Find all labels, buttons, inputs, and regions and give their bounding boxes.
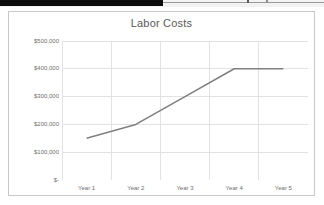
data-series-line [87, 69, 284, 139]
chart-title: Labor Costs [9, 17, 314, 29]
x-axis-tick-label: Year 5 [255, 185, 311, 191]
vertical-gridlines [62, 41, 308, 180]
y-axis-tick-label: $- [13, 177, 59, 183]
window-chrome-divider [163, 2, 324, 3]
x-axis-tick-label: Year 2 [108, 185, 164, 191]
horizontal-gridlines [62, 41, 308, 180]
window-chrome-tick-right-icon [266, 0, 268, 3]
window-chrome-tick-left-icon [247, 0, 249, 3]
chart-panel[interactable]: Labor Costs $-$100,000$200,000$300,000$4… [8, 11, 315, 196]
y-axis-tick-label: $500,000 [13, 38, 59, 44]
y-axis-tick-label: $100,000 [13, 149, 59, 155]
y-axis-tick-labels: $-$100,000$200,000$300,000$400,000$500,0… [11, 41, 59, 180]
y-axis-tick-label: $300,000 [13, 93, 59, 99]
plot-area[interactable] [62, 41, 308, 180]
window-chrome-dark-bar [0, 0, 163, 6]
screenshot-root: Labor Costs $-$100,000$200,000$300,000$4… [0, 0, 324, 205]
window-chrome-strip [0, 0, 324, 7]
y-axis-tick-label: $400,000 [13, 65, 59, 71]
x-axis-tick-label: Year 4 [206, 185, 262, 191]
x-axis-tick-label: Year 1 [59, 185, 115, 191]
line-chart-svg [62, 41, 308, 180]
y-axis-tick-label: $200,000 [13, 121, 59, 127]
x-axis-tick-labels: Year 1Year 2Year 3Year 4Year 5 [62, 185, 308, 197]
x-axis-tick-label: Year 3 [157, 185, 213, 191]
